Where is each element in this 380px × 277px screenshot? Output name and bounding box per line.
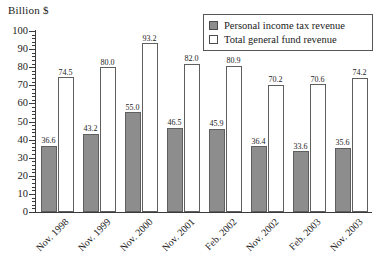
bar: 70.6 bbox=[310, 84, 326, 212]
bar-value-label: 82.0 bbox=[185, 55, 199, 63]
bar: 55.0 bbox=[125, 112, 141, 212]
bar: 74.2 bbox=[352, 78, 368, 212]
y-tick-label: 70 bbox=[2, 80, 28, 91]
bar: 70.2 bbox=[268, 85, 284, 212]
x-axis-labels: Nov. 1998Nov. 1999Nov. 2000Nov. 2001Feb.… bbox=[0, 214, 380, 277]
bar: 35.6 bbox=[335, 148, 351, 212]
x-tick-label: Feb. 2003 bbox=[287, 216, 323, 252]
bar: 33.6 bbox=[293, 151, 309, 212]
bar: 43.2 bbox=[83, 134, 99, 212]
bar: 80.9 bbox=[226, 66, 242, 212]
bar-value-label: 45.9 bbox=[210, 120, 224, 128]
bar: 80.0 bbox=[100, 67, 116, 212]
bar-value-label: 33.6 bbox=[294, 143, 308, 151]
bar: 93.2 bbox=[142, 43, 158, 212]
x-tick-label: Nov. 1999 bbox=[76, 216, 113, 253]
x-tick-label: Feb. 2002 bbox=[203, 216, 239, 252]
bar: 82.0 bbox=[184, 64, 200, 212]
legend-item-personal-income-tax-revenue: Personal income tax revenue bbox=[209, 18, 367, 32]
x-tick-label: Nov. 2003 bbox=[328, 216, 365, 253]
plot-area: 36.674.543.280.055.093.246.582.045.980.9… bbox=[36, 31, 372, 212]
bar-value-label: 35.6 bbox=[336, 139, 350, 147]
bar-value-label: 70.6 bbox=[311, 76, 325, 84]
bar: 36.6 bbox=[41, 146, 57, 212]
bar: 46.5 bbox=[167, 128, 183, 212]
x-tick-label: Nov. 1998 bbox=[34, 216, 71, 253]
y-tick-mark bbox=[29, 212, 36, 213]
bar-value-label: 55.0 bbox=[126, 104, 140, 112]
y-tick-mark bbox=[29, 103, 36, 104]
y-tick-mark bbox=[29, 31, 36, 32]
y-tick-mark bbox=[29, 67, 36, 68]
bar-value-label: 70.2 bbox=[269, 76, 283, 84]
y-tick-mark bbox=[29, 158, 36, 159]
x-tick-label: Nov. 2002 bbox=[244, 216, 281, 253]
y-tick-label: 50 bbox=[2, 117, 28, 128]
x-axis-line bbox=[35, 212, 372, 213]
y-tick-label: 10 bbox=[2, 189, 28, 200]
bar-value-label: 46.5 bbox=[168, 119, 182, 127]
bar-value-label: 80.9 bbox=[227, 57, 241, 65]
bar-value-label: 74.2 bbox=[353, 69, 367, 77]
bar-value-label: 74.5 bbox=[59, 69, 73, 77]
y-tick-mark bbox=[29, 194, 36, 195]
y-tick-mark bbox=[29, 85, 36, 86]
legend-swatch-icon bbox=[209, 21, 218, 30]
bar-value-label: 43.2 bbox=[84, 125, 98, 133]
y-tick-label: 60 bbox=[2, 98, 28, 109]
bar: 74.5 bbox=[58, 77, 74, 212]
x-tick-label: Nov. 2000 bbox=[118, 216, 155, 253]
y-tick-label: 20 bbox=[2, 171, 28, 182]
x-tick-label: Nov. 2001 bbox=[160, 216, 197, 253]
bar-value-label: 80.0 bbox=[101, 59, 115, 67]
bar-chart: Billion $ Personal income tax revenue To… bbox=[0, 0, 380, 277]
y-tick-label: 80 bbox=[2, 62, 28, 73]
y-tick-label: 30 bbox=[2, 153, 28, 164]
bar-value-label: 93.2 bbox=[143, 35, 157, 43]
bar-value-label: 36.6 bbox=[42, 137, 56, 145]
bar: 36.4 bbox=[251, 146, 267, 212]
y-tick-label: 100 bbox=[2, 26, 28, 37]
bar: 45.9 bbox=[209, 129, 225, 212]
bar-value-label: 36.4 bbox=[252, 138, 266, 146]
y-tick-label: 90 bbox=[2, 44, 28, 55]
y-tick-mark bbox=[29, 122, 36, 123]
y-tick-mark bbox=[29, 49, 36, 50]
y-tick-label: 40 bbox=[2, 135, 28, 146]
y-tick-mark bbox=[29, 176, 36, 177]
y-tick-mark bbox=[29, 140, 36, 141]
legend-item-label: Personal income tax revenue bbox=[224, 20, 345, 31]
